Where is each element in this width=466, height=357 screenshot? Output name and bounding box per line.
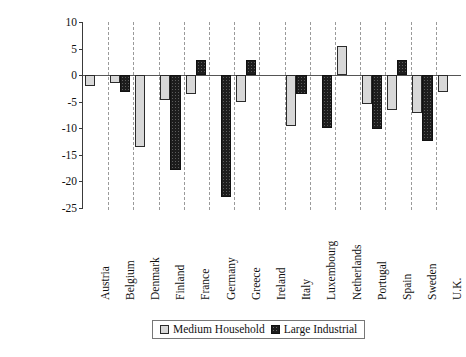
- bar-denmark-medium-household: [135, 75, 145, 147]
- x-axis-label-portugal: Portugal: [376, 261, 388, 300]
- category-separator-gridline: [436, 22, 437, 210]
- bar-finland-medium-household: [160, 75, 170, 99]
- bar-austria-medium-household: [85, 75, 95, 86]
- x-axis-label-sweden: Sweden: [426, 264, 438, 300]
- y-axis-tick-mark: [79, 22, 83, 23]
- plot-area: 1050-5-10-15-20-25: [82, 22, 461, 208]
- bar-chart: Per cent change in price during 1998-200…: [0, 0, 466, 357]
- y-axis-tick-label: -10: [62, 122, 77, 134]
- x-axis-label-netherlands: Netherlands: [351, 244, 363, 300]
- category-separator-gridline: [234, 22, 235, 210]
- bar-uk-medium-household: [438, 75, 448, 92]
- bar-spain-medium-household: [387, 75, 397, 110]
- category-separator-gridline: [385, 22, 386, 210]
- chart-legend: Medium Household Large Industrial: [152, 320, 365, 339]
- category-separator-gridline: [108, 22, 109, 210]
- x-axis-label-finland: Finland: [174, 265, 186, 300]
- y-axis-tick-label: 5: [71, 43, 77, 55]
- category-separator-gridline: [159, 22, 160, 210]
- x-axis-label-luxembourg: Luxembourg: [325, 241, 337, 300]
- y-axis-tick-label: 10: [66, 16, 78, 28]
- bar-france-large-industrial: [196, 60, 206, 75]
- x-axis-label-italy: Italy: [300, 279, 312, 300]
- legend-item-medium-household: Medium Household: [160, 323, 265, 335]
- bar-italy-medium-household: [286, 75, 296, 126]
- y-axis-tick-mark: [79, 49, 83, 50]
- bar-germany-large-industrial: [221, 75, 231, 197]
- x-axis-label-austria: Austria: [99, 266, 111, 300]
- category-separator-gridline: [259, 22, 260, 210]
- bar-greece-medium-household: [236, 75, 246, 102]
- category-separator-gridline: [310, 22, 311, 210]
- x-axis-label-greece: Greece: [250, 267, 262, 300]
- x-axis-label-spain: Spain: [401, 274, 413, 300]
- x-axis-label-denmark: Denmark: [149, 257, 161, 300]
- legend-label-medium-household: Medium Household: [173, 323, 265, 335]
- category-separator-gridline: [184, 22, 185, 210]
- legend-item-large-industrial: Large Industrial: [271, 323, 358, 335]
- y-axis-tick-label: -15: [62, 149, 77, 161]
- category-separator-gridline: [209, 22, 210, 210]
- bar-sweden-medium-household: [412, 75, 422, 113]
- y-axis-tick-label: -25: [62, 202, 77, 214]
- x-axis-label-germany: Germany: [225, 257, 237, 300]
- y-axis-tick-mark: [79, 102, 83, 103]
- y-axis-tick-label: -5: [67, 96, 77, 108]
- bar-france-medium-household: [186, 75, 196, 94]
- y-axis-tick-label: 0: [71, 69, 77, 81]
- y-axis-tick-mark: [79, 155, 83, 156]
- large-industrial-swatch: [271, 325, 280, 334]
- x-axis-label-ireland: Ireland: [275, 267, 287, 300]
- category-separator-gridline: [411, 22, 412, 210]
- bar-belgium-medium-household: [110, 75, 120, 83]
- medium-household-swatch: [160, 325, 169, 334]
- bar-greece-large-industrial: [246, 60, 256, 75]
- bar-finland-large-industrial: [170, 75, 180, 170]
- bar-spain-large-industrial: [397, 60, 407, 75]
- category-separator-gridline: [360, 22, 361, 210]
- bar-portugal-medium-household: [362, 75, 372, 104]
- bar-netherlands-medium-household: [337, 46, 347, 75]
- bar-luxembourg-large-industrial: [322, 75, 332, 128]
- y-axis-title: Per cent change in price during 1998-200…: [0, 26, 34, 66]
- bar-sweden-large-industrial: [422, 75, 432, 141]
- bar-italy-large-industrial: [296, 75, 306, 94]
- legend-label-large-industrial: Large Industrial: [284, 323, 358, 335]
- x-axis-label-uk: U.K.: [451, 278, 463, 300]
- x-axis-label-france: France: [199, 269, 211, 300]
- x-axis-labels: AustriaBelgiumDenmarkFinlandFranceGerman…: [82, 212, 460, 304]
- y-axis-tick-mark: [79, 208, 83, 209]
- bar-belgium-large-industrial: [120, 75, 130, 92]
- bar-portugal-large-industrial: [372, 75, 382, 129]
- y-axis-tick-mark: [79, 128, 83, 129]
- y-axis-tick-mark: [79, 75, 83, 76]
- x-axis-label-belgium: Belgium: [124, 260, 136, 300]
- y-axis-tick-mark: [79, 181, 83, 182]
- y-axis-tick-label: -20: [62, 175, 77, 187]
